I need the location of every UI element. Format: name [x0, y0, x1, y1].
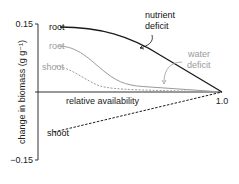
- label-shoot-gray: shoot: [42, 62, 65, 72]
- x-tick-label-end: 1.0: [216, 96, 229, 106]
- y-tick-label-bottom: −0.15: [10, 155, 33, 165]
- x-axis-label: relative availability: [66, 96, 140, 106]
- annotation-nutrient-1: nutrient: [145, 10, 176, 20]
- biomass-chart: 0.15 −0.15 change in biomass (g g⁻¹) rel…: [0, 0, 239, 184]
- annotation-nutrient-2: deficit: [145, 21, 169, 31]
- annotation-water-1: water: [187, 49, 210, 59]
- y-axis-label: change in biomass (g g⁻¹): [17, 40, 27, 144]
- label-root-black: root: [49, 22, 65, 32]
- label-root-gray: root: [49, 41, 65, 51]
- annotation-water-2: deficit: [187, 60, 211, 70]
- water-arrow: [164, 62, 182, 82]
- label-shoot-black: shoot: [47, 128, 70, 138]
- y-tick-label-top: 0.15: [15, 19, 33, 29]
